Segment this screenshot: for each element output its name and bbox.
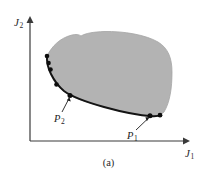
annotation-p1-text: P [127,130,133,141]
y-axis-label: J2 [14,17,23,28]
pareto-marker-3 [48,67,52,71]
y-axis-label-subscript: 2 [19,21,23,30]
pareto-marker-2 [46,61,50,65]
figure-container: J2 J1 P2 P1 (a) [0,0,217,181]
annotation-label-p2: P2 [54,114,64,125]
annotation-p2-text: P [54,113,60,124]
pareto-marker-5 [68,93,73,98]
pareto-marker-4 [54,82,59,87]
annotation-p1-subscript: 1 [134,134,138,143]
figure-caption: (a) [0,158,217,169]
pareto-marker-7 [158,113,163,118]
p1-leader-line [136,119,148,131]
annotation-p2-subscript: 2 [61,117,65,126]
pareto-marker-1 [45,54,50,59]
feasible-region-shape [47,31,172,116]
annotation-label-p1: P1 [127,131,137,142]
